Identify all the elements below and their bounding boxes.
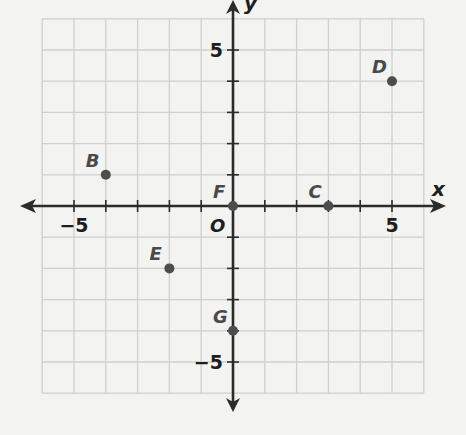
coordinate-plane: −555−5 x y O BDFCEG [0, 0, 466, 435]
x-tick-label: 5 [385, 214, 398, 236]
point-label: F [213, 181, 226, 202]
origin-label: O [210, 215, 225, 236]
y-tick-label: −5 [194, 351, 223, 373]
points: BDFCEG [86, 56, 397, 336]
point-marker-icon [101, 170, 111, 180]
y-axis-label: y [244, 0, 258, 15]
point-marker-icon [228, 326, 238, 336]
point-marker-icon [228, 201, 238, 211]
x-tick-label: −5 [59, 214, 88, 236]
y-tick-label: 5 [210, 39, 223, 61]
point-marker-icon [323, 201, 333, 211]
point-label: G [213, 306, 228, 327]
x-axis-label: x [431, 177, 446, 201]
point-marker-icon [387, 76, 397, 86]
point-label: B [86, 150, 100, 171]
point-label: D [372, 56, 387, 77]
point-marker-icon [164, 263, 174, 273]
point-label: E [149, 243, 162, 264]
point-label: C [308, 181, 322, 202]
